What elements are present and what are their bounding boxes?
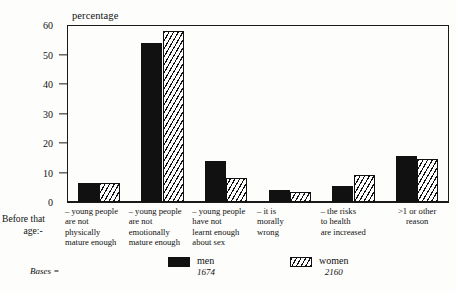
legend-label-women: women (319, 256, 348, 266)
legend-swatch-men-icon (168, 257, 190, 267)
y-tick-label-40: 40 (43, 79, 53, 90)
bar-women-5 (417, 159, 438, 202)
bar-women-1 (163, 31, 184, 202)
y-tick-mark-40 (59, 83, 67, 84)
y-tick-mark-20 (59, 142, 67, 143)
y-tick-mark-50 (59, 54, 67, 55)
y-tick-label-50: 50 (43, 49, 53, 60)
x-axis-category-labels: – young people are not physically mature… (0, 206, 456, 256)
category-label-1: – young people are not emotionally matur… (129, 206, 191, 247)
y-tick-mark-10 (59, 172, 67, 173)
legend-base-men: 1674 (197, 267, 215, 277)
y-tick-label-20: 20 (43, 138, 53, 149)
bar-men-1 (141, 43, 162, 202)
axis-caption-line2: age:- (2, 225, 64, 237)
category-label-0: – young people are not physically mature… (65, 206, 127, 247)
bars-layer (67, 25, 449, 202)
y-tick-mark-30 (59, 113, 67, 114)
category-label-3: – it is morally wrong (257, 206, 319, 237)
y-tick-label-10: 10 (43, 167, 53, 178)
axis-caption-line1: Before that (2, 213, 64, 225)
y-axis-title: percentage (72, 10, 118, 21)
bar-women-4 (354, 175, 375, 202)
y-tick-label-60: 60 (43, 20, 53, 31)
category-label-2: – young people have not learnt enough ab… (192, 206, 254, 247)
y-tick-label-30: 30 (43, 108, 53, 119)
category-label-5: >1 or other reason (386, 206, 448, 227)
legend-entry-men[interactable]: men1674 (168, 256, 215, 277)
bases-label: Bases = (30, 266, 59, 276)
bar-women-2 (226, 178, 247, 202)
category-label-4: – the risks to health are increased (321, 206, 383, 237)
bar-women-3 (290, 192, 311, 202)
axis-caption: Before that age:- (2, 213, 64, 236)
bar-women-0 (99, 183, 120, 202)
bar-men-2 (205, 161, 226, 202)
legend-entry-women[interactable]: women2160 (290, 256, 348, 277)
legend-swatch-women-icon (290, 257, 312, 267)
legend: men1674women2160 (168, 256, 398, 286)
bar-men-0 (78, 183, 99, 202)
bar-men-5 (396, 156, 417, 202)
legend-base-women: 2160 (319, 267, 348, 277)
bar-men-3 (269, 190, 290, 202)
legend-label-men: men (197, 256, 215, 266)
bar-men-4 (332, 186, 353, 202)
